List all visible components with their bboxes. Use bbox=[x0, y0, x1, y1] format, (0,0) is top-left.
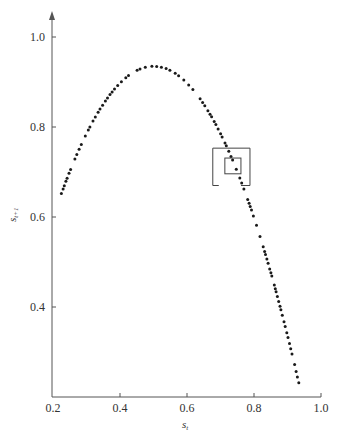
annotation-boxes bbox=[213, 148, 250, 185]
data-point bbox=[84, 134, 87, 137]
x-tick-label: 1.0 bbox=[314, 401, 329, 415]
data-point bbox=[165, 67, 168, 70]
data-point bbox=[242, 187, 245, 190]
y-axis-arrow-icon bbox=[49, 11, 55, 20]
data-point bbox=[276, 295, 279, 298]
data-point bbox=[248, 202, 251, 205]
data-point bbox=[264, 253, 267, 256]
data-point bbox=[101, 104, 104, 107]
data-point bbox=[150, 65, 153, 68]
data-point bbox=[262, 245, 265, 248]
data-point bbox=[97, 111, 100, 114]
data-point bbox=[124, 76, 127, 79]
data-point bbox=[263, 250, 266, 253]
data-point bbox=[136, 69, 139, 72]
y-tick-label: 0.4 bbox=[30, 300, 45, 314]
data-point bbox=[177, 74, 180, 77]
x-tick-label: 0.6 bbox=[180, 401, 195, 415]
y-axis-label-sub: t+1 bbox=[12, 208, 20, 218]
y-tick-label: 1.0 bbox=[30, 30, 45, 44]
data-point bbox=[80, 143, 83, 146]
data-point bbox=[238, 177, 241, 180]
outer-box bbox=[213, 148, 250, 185]
data-point bbox=[109, 93, 112, 96]
data-point bbox=[227, 150, 230, 153]
data-point bbox=[231, 159, 234, 162]
data-point bbox=[73, 157, 76, 160]
data-point bbox=[219, 132, 222, 135]
data-point bbox=[63, 184, 66, 187]
data-point bbox=[235, 168, 238, 171]
data-point bbox=[174, 72, 177, 75]
data-point bbox=[269, 271, 272, 274]
data-point bbox=[111, 91, 114, 94]
x-tick-label: 0.2 bbox=[46, 401, 61, 415]
data-point bbox=[106, 97, 109, 100]
y-tick-label: 0.6 bbox=[30, 210, 45, 224]
data-point bbox=[116, 84, 119, 87]
data-point bbox=[224, 141, 227, 144]
x-ticks: 0.20.40.60.81.0 bbox=[46, 393, 329, 415]
y-axis-label: st+1 bbox=[6, 208, 20, 222]
data-point bbox=[249, 205, 252, 208]
data-point bbox=[287, 336, 290, 339]
data-point bbox=[246, 198, 249, 201]
data-point bbox=[217, 127, 220, 130]
x-tick-label: 0.8 bbox=[247, 401, 262, 415]
data-point bbox=[99, 108, 102, 111]
data-point bbox=[284, 325, 287, 328]
data-point bbox=[209, 113, 212, 116]
data-point bbox=[155, 65, 158, 68]
data-point bbox=[78, 148, 81, 151]
data-point bbox=[92, 120, 95, 123]
x-tick-label: 0.4 bbox=[113, 401, 128, 415]
data-point bbox=[168, 69, 171, 72]
data-point bbox=[221, 135, 224, 138]
data-point bbox=[182, 79, 185, 82]
data-points bbox=[60, 65, 300, 384]
data-point bbox=[68, 172, 71, 175]
data-point bbox=[88, 125, 91, 128]
data-point bbox=[295, 370, 298, 373]
data-point bbox=[279, 305, 282, 308]
data-point bbox=[283, 320, 286, 323]
data-point bbox=[267, 262, 270, 265]
data-point bbox=[270, 275, 273, 278]
data-point bbox=[60, 192, 63, 195]
data-point bbox=[104, 99, 107, 102]
data-point bbox=[273, 284, 276, 287]
return-map-chart: 0.20.40.60.81.0 0.40.60.81.0 st st+1 bbox=[0, 0, 343, 443]
data-point bbox=[289, 347, 292, 350]
data-point bbox=[275, 290, 278, 293]
data-point bbox=[69, 168, 72, 171]
data-point bbox=[252, 215, 255, 218]
data-point bbox=[120, 80, 123, 83]
data-point bbox=[160, 66, 163, 69]
data-point bbox=[281, 314, 284, 317]
data-point bbox=[259, 235, 262, 238]
data-point bbox=[75, 153, 78, 156]
data-point bbox=[240, 181, 243, 184]
x-axis-label: st bbox=[182, 418, 189, 432]
data-point bbox=[66, 177, 69, 180]
data-point bbox=[62, 187, 65, 190]
data-point bbox=[187, 83, 190, 86]
data-point bbox=[296, 375, 299, 378]
data-point bbox=[279, 308, 282, 311]
data-point bbox=[127, 74, 130, 77]
data-point bbox=[297, 381, 300, 384]
data-point bbox=[87, 129, 90, 132]
data-point bbox=[274, 287, 277, 290]
data-point bbox=[265, 258, 268, 261]
axes bbox=[49, 11, 321, 397]
data-point bbox=[288, 342, 291, 345]
x-axis-label-sub: t bbox=[186, 424, 189, 432]
data-point bbox=[64, 180, 67, 183]
y-tick-label: 0.8 bbox=[30, 120, 45, 134]
data-point bbox=[225, 144, 228, 147]
data-point bbox=[230, 155, 233, 158]
data-point bbox=[277, 300, 280, 303]
data-point bbox=[291, 353, 294, 356]
data-point bbox=[139, 68, 142, 71]
data-point bbox=[213, 120, 216, 123]
